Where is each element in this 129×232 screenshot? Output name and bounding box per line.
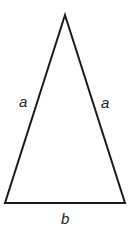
left-side-label: a: [19, 93, 27, 110]
right-side-label: a: [101, 94, 109, 111]
base-label: b: [61, 210, 69, 227]
triangle-diagram: a a b: [0, 0, 129, 232]
